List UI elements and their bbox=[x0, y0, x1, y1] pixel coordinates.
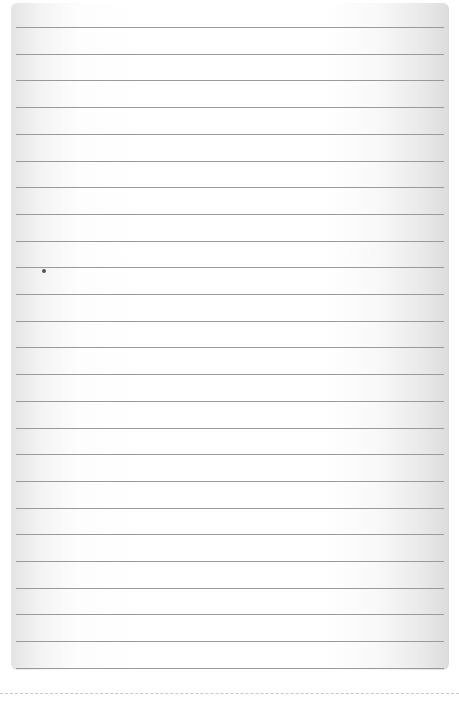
ruled-line bbox=[16, 294, 444, 295]
ruled-line bbox=[16, 668, 444, 669]
ruled-line bbox=[16, 588, 444, 589]
ruled-line bbox=[16, 508, 444, 509]
ruled-line bbox=[16, 267, 444, 268]
ruled-line bbox=[16, 214, 444, 215]
ruled-line bbox=[16, 561, 444, 562]
ruled-line bbox=[16, 241, 444, 242]
dotted-cut-line bbox=[0, 693, 459, 694]
ruled-line bbox=[16, 134, 444, 135]
ruled-line bbox=[16, 107, 444, 108]
ruled-line bbox=[16, 54, 444, 55]
ruled-line bbox=[16, 347, 444, 348]
lined-paper-sheet bbox=[11, 3, 449, 670]
ruled-line bbox=[16, 481, 444, 482]
ruled-line bbox=[16, 428, 444, 429]
ruled-line bbox=[16, 534, 444, 535]
ruled-line bbox=[16, 374, 444, 375]
ruled-line bbox=[16, 401, 444, 402]
ruled-line bbox=[16, 161, 444, 162]
ruled-line bbox=[16, 27, 444, 28]
ruled-line bbox=[16, 187, 444, 188]
ruled-line bbox=[16, 321, 444, 322]
ruled-line bbox=[16, 80, 444, 81]
ruled-line bbox=[16, 641, 444, 642]
ruled-line bbox=[16, 454, 444, 455]
ink-dot bbox=[42, 269, 46, 273]
ruled-line bbox=[16, 614, 444, 615]
